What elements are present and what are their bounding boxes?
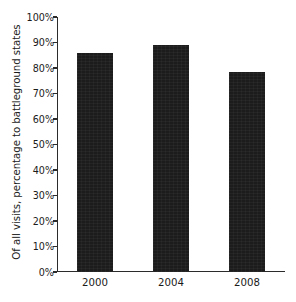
bar[interactable]: [229, 72, 265, 272]
y-axis-tick-label: 30%: [24, 190, 54, 201]
y-axis-tick-label: 40%: [24, 165, 54, 176]
x-axis-tick-label: 2008: [209, 276, 285, 290]
plot-area: [57, 17, 285, 272]
y-axis-tick-label-group: 0%10%20%30%40%50%60%70%80%90%100%: [24, 10, 54, 292]
x-axis-tick-label: 2004: [133, 276, 209, 290]
bar[interactable]: [77, 53, 113, 272]
y-axis-tick-label: 70%: [24, 88, 54, 99]
y-axis-tick-label: 20%: [24, 216, 54, 227]
y-axis-tick-label: 50%: [24, 139, 54, 150]
y-axis-tick-label: 100%: [24, 12, 54, 23]
bar-slot: [209, 17, 285, 272]
y-axis-title: Of all visits, percentage to battlegroun…: [8, 13, 24, 271]
y-axis-tick-label: 0%: [24, 267, 54, 278]
x-axis-tick-label-group: 200020042008: [57, 276, 285, 292]
y-axis-tick-label: 90%: [24, 37, 54, 48]
bar-group: [57, 17, 285, 272]
x-axis-tick-label: 2000: [57, 276, 133, 290]
y-axis-tick-label: 60%: [24, 114, 54, 125]
bar-slot: [57, 17, 133, 272]
bar[interactable]: [153, 45, 189, 272]
y-axis-tick-label: 80%: [24, 63, 54, 74]
bar-chart-figure: Of all visits, percentage to battlegroun…: [0, 0, 296, 302]
bar-slot: [133, 17, 209, 272]
y-axis-tick-label: 10%: [24, 241, 54, 252]
